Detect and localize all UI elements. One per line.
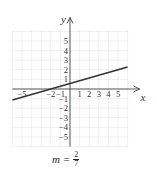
slope-fraction: 2 7 [73, 151, 79, 168]
x-tick-label: 3 [97, 89, 101, 99]
y-tick-label: −4 [59, 122, 69, 132]
y-tick-label: 5 [64, 36, 68, 46]
x-tick-label: 1 [77, 89, 81, 99]
y-tick-label: 4 [64, 46, 69, 56]
x-tick-label: 2 [87, 89, 91, 99]
y-tick-label: 1 [64, 74, 68, 84]
y-tick-label: −5 [59, 132, 68, 142]
coordinate-plane: xy−5−2−11234554321−1−2−3−4−5 [0, 0, 157, 150]
x-tick-label: 4 [106, 89, 111, 99]
y-axis-label: y [60, 13, 66, 25]
y-tick-label: −2 [59, 103, 68, 113]
y-tick-label: −3 [59, 113, 68, 123]
slope-caption: m = 2 7 [52, 148, 112, 170]
y-tick-label: 3 [64, 55, 68, 65]
y-tick-label: 2 [64, 65, 68, 75]
y-tick-label: −1 [59, 94, 68, 104]
x-tick-label: 5 [116, 89, 120, 99]
slope-label: m = [52, 153, 70, 165]
x-axis-label: x [140, 91, 146, 103]
slope-denominator: 7 [74, 160, 78, 168]
